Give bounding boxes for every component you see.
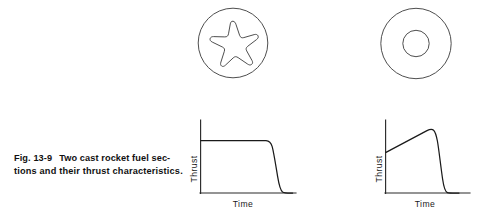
figure-artwork: Thrust Time Thrust Time bbox=[0, 0, 482, 221]
star-port-icon bbox=[210, 21, 258, 66]
figure-13-9: Fig. 13-9Two cast rocket fuel sec- tions… bbox=[0, 0, 482, 221]
grain-outer-circle-right bbox=[381, 8, 451, 78]
right-chart-x-axis-label: Time bbox=[415, 199, 436, 209]
left-chart-x-axis-label: Time bbox=[233, 199, 254, 209]
grain-inner-port-circle bbox=[403, 30, 429, 56]
left-chart-curve bbox=[201, 141, 293, 194]
right-chart-curve bbox=[386, 129, 459, 193]
left-thrust-chart: Thrust Time bbox=[189, 120, 296, 209]
grain-outer-circle-left bbox=[198, 8, 268, 78]
star-grain-cross-section bbox=[198, 8, 268, 78]
right-chart-y-axis-label: Thrust bbox=[374, 155, 384, 182]
right-thrust-chart: Thrust Time bbox=[374, 120, 470, 209]
left-chart-y-axis-label: Thrust bbox=[189, 155, 199, 182]
annular-grain-cross-section bbox=[381, 8, 451, 78]
